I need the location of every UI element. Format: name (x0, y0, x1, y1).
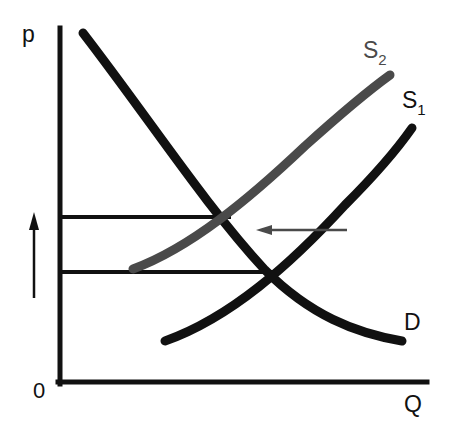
supply-curve-s2-label-text: S (363, 37, 378, 63)
supply-curve-s2 (133, 75, 390, 269)
demand-curve-label: D (404, 309, 421, 335)
price-increase-arrow (29, 212, 39, 298)
supply-curve-s1-label-subscript: 1 (417, 101, 425, 118)
x-axis-label: Q (404, 391, 422, 417)
supply-curve-s1-label-text: S (402, 87, 417, 113)
supply-curve-s1-label: S1 (402, 87, 426, 118)
origin-label: 0 (33, 378, 45, 403)
supply-curve-s2-label-subscript: 2 (378, 51, 386, 68)
supply-shift-arrow (256, 225, 347, 235)
supply-curve-s2-label: S2 (363, 37, 387, 68)
diagram-canvas: p Q 0 S2 S1 D (0, 0, 462, 432)
supply-demand-figure: p Q 0 S2 S1 D (0, 0, 462, 432)
y-axis-label: p (22, 21, 35, 47)
